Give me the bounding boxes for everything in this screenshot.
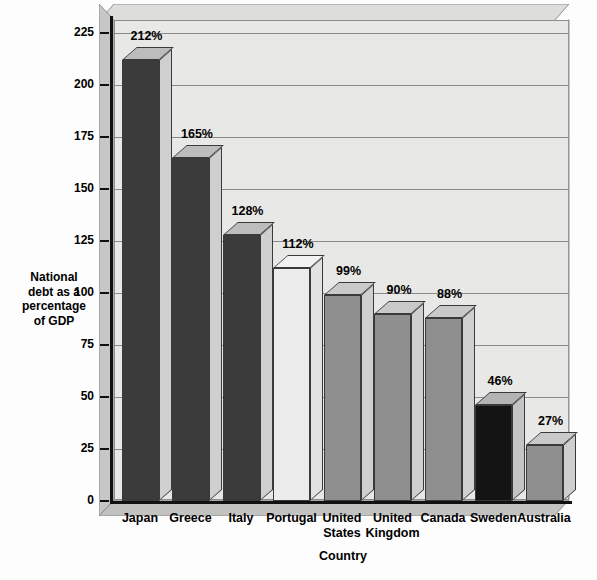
bar-side-face (411, 302, 424, 500)
bar-value-label: 99% (314, 264, 384, 278)
y-axis-line (110, 16, 113, 504)
x-category-label: Australia (501, 511, 587, 526)
bar-value-label: 165% (162, 127, 232, 141)
y-tick-label: 150 (48, 181, 94, 195)
bar-value-label: 128% (213, 204, 283, 218)
bar-japan[interactable] (122, 60, 159, 501)
y-tick-mark (100, 292, 109, 294)
bar-front-face (324, 295, 361, 501)
y-tick-label: 75 (48, 337, 94, 351)
bar-side-face (159, 49, 172, 501)
bar-chart: Nationaldebt as apercentageof GDP Countr… (0, 0, 597, 580)
bar-front-face (273, 268, 310, 501)
bar-side-face (361, 284, 374, 501)
y-axis-title: Nationaldebt as apercentageof GDP (8, 270, 100, 328)
y-tick-label: 100 (48, 285, 94, 299)
y-tick-mark (100, 84, 109, 86)
y-tick-mark (100, 396, 109, 398)
y-tick-mark (100, 32, 109, 34)
bar-italy[interactable] (223, 235, 260, 501)
bar-side-face (209, 146, 222, 500)
bar-value-label: 27% (516, 414, 586, 428)
y-axis-title-line: of GDP (8, 314, 100, 329)
y-axis-title-line: percentage (8, 299, 100, 314)
bar-front-face (374, 314, 411, 501)
gridline (114, 85, 569, 86)
bar-front-face (475, 405, 512, 501)
y-tick-mark (100, 448, 109, 450)
y-tick-mark (100, 500, 109, 502)
bar-canada[interactable] (425, 318, 462, 501)
bar-united-kingdom[interactable] (374, 314, 411, 501)
y-tick-label: 25 (48, 441, 94, 455)
bar-side-face (462, 307, 475, 501)
y-tick-label: 200 (48, 77, 94, 91)
bar-front-face (122, 60, 159, 501)
bar-australia[interactable] (526, 445, 563, 501)
y-tick-mark (100, 344, 109, 346)
bar-value-label: 112% (263, 237, 333, 251)
y-axis-title-line: National (8, 270, 100, 285)
category-label-line: Australia (501, 511, 587, 526)
y-tick-mark (100, 240, 109, 242)
bar-front-face (526, 445, 563, 501)
y-tick-label: 225 (48, 25, 94, 39)
y-tick-label: 0 (48, 493, 94, 507)
y-tick-mark (100, 136, 109, 138)
bar-value-label: 88% (415, 287, 485, 301)
bar-side-face (310, 257, 323, 501)
bar-front-face (172, 158, 209, 501)
category-label-line: Kingdom (350, 526, 436, 541)
y-tick-label: 125 (48, 233, 94, 247)
bar-value-label: 212% (112, 29, 182, 43)
bar-side-face (512, 394, 525, 501)
bar-side-face (260, 223, 273, 501)
bar-value-label: 46% (465, 374, 535, 388)
bar-greece[interactable] (172, 158, 209, 501)
gridline (114, 33, 569, 34)
y-tick-label: 175 (48, 129, 94, 143)
x-axis-title: Country (300, 549, 386, 563)
bar-portugal[interactable] (273, 268, 310, 501)
y-tick-mark (100, 188, 109, 190)
bar-united-states[interactable] (324, 295, 361, 501)
chart-3d-top-panel (99, 4, 569, 21)
bar-sweden[interactable] (475, 405, 512, 501)
bar-front-face (223, 235, 260, 501)
y-tick-label: 50 (48, 389, 94, 403)
x-axis-line (110, 501, 572, 504)
bar-front-face (425, 318, 462, 501)
